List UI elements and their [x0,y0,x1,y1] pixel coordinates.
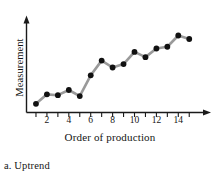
figure-caption: a. Uptrend [4,160,50,171]
chart-x-axis-label: Order of production [26,131,194,143]
run-chart-figure: Measurement Order of production 24681012… [0,0,215,186]
chart-series-markers [33,33,192,107]
x-tick-label-10: 10 [126,115,144,125]
x-tick-label-6: 6 [82,115,100,125]
x-tick-label-4: 4 [60,115,78,125]
x-tick-label-2: 2 [38,115,56,125]
chart-plot-area [0,0,215,186]
x-tick-label-12: 12 [147,115,165,125]
chart-y-axis-label: Measurement [14,20,25,116]
x-tick-label-14: 14 [169,115,187,125]
x-tick-label-8: 8 [104,115,122,125]
